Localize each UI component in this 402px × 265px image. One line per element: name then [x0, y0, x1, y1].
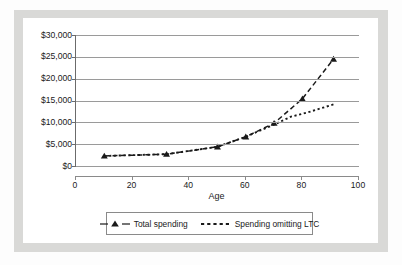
- gridline: [76, 35, 359, 36]
- y-axis-tick-label: $30,000: [41, 31, 72, 40]
- y-axis-tick: [72, 122, 76, 123]
- x-axis-tick-label: 100: [351, 181, 365, 190]
- y-axis-tick-label: $15,000: [41, 96, 72, 105]
- x-axis-tick-label: 0: [73, 181, 78, 190]
- x-axis-tick-label: 20: [127, 181, 137, 190]
- gridline: [76, 101, 359, 102]
- gridline: [76, 57, 359, 58]
- y-axis-tick: [72, 35, 76, 36]
- legend-entry-spending-omitting-ltc: Spending omitting LTC: [201, 219, 320, 229]
- gridline: [76, 122, 359, 123]
- y-axis-tick-label: $20,000: [41, 74, 72, 83]
- gridline: [76, 79, 359, 80]
- y-axis-tick-label: $10,000: [41, 118, 72, 127]
- legend-label-spending-omitting-ltc: Spending omitting LTC: [235, 219, 320, 229]
- gridline: [76, 166, 359, 167]
- legend-label-total-spending: Total spending: [134, 219, 188, 229]
- y-axis-tick: [72, 166, 76, 167]
- x-axis-title: Age: [75, 191, 358, 201]
- plot-area: [75, 35, 358, 166]
- gridline: [76, 144, 359, 145]
- chart-page: $0$5,000$10,000$15,000$20,000$25,000$30,…: [0, 0, 402, 265]
- y-axis-tick: [72, 57, 76, 58]
- x-axis-tick-label: 60: [240, 181, 250, 190]
- y-axis-tick-label: $5,000: [46, 140, 72, 149]
- series-line-0: [104, 59, 333, 156]
- dashed-triangle-marker-icon: [100, 219, 130, 229]
- x-axis-tick-label: 80: [297, 181, 307, 190]
- dotted-line-marker-icon: [201, 219, 231, 229]
- y-axis-tick-label: $0: [62, 162, 72, 171]
- y-axis-tick-label: $25,000: [41, 52, 72, 61]
- x-axis-tick-label: 40: [183, 181, 193, 190]
- y-axis-tick: [72, 101, 76, 102]
- y-axis-labels: $0$5,000$10,000$15,000$20,000$25,000$30,…: [0, 35, 72, 166]
- y-axis-tick: [72, 144, 76, 145]
- legend-entry-total-spending: Total spending: [100, 219, 188, 229]
- y-axis-tick: [72, 79, 76, 80]
- chart-legend: Total spending Spending omitting LTC: [106, 212, 313, 235]
